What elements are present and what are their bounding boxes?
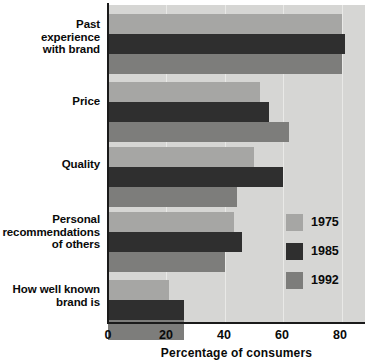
legend-label-1985: 1985	[311, 244, 339, 258]
x-axis-title: Percentage of consumers	[108, 346, 365, 360]
bar-1992-group-1	[108, 122, 289, 142]
bar-1992-group-3	[108, 252, 225, 272]
bar-1992-group-0	[108, 54, 342, 74]
legend-swatch-1985	[286, 243, 303, 260]
bar-1992-group-2	[108, 187, 237, 207]
legend-swatch-1975	[286, 214, 303, 231]
bar-1985-group-3	[108, 232, 242, 252]
bar-1975-group-1	[108, 82, 260, 102]
x-tick-20: 20	[159, 328, 173, 342]
x-tick-60: 60	[275, 328, 289, 342]
bar-chart: Past experience with brand Price Quality…	[0, 0, 375, 364]
x-tick-0: 0	[105, 328, 112, 342]
y-axis-label-how-well-known: How well known brand is	[13, 283, 100, 308]
bar-1985-group-2	[108, 167, 283, 187]
bar-1975-group-4	[108, 280, 169, 300]
legend-swatch-1992	[286, 272, 303, 289]
bar-1975-group-0	[108, 14, 342, 34]
y-axis-category-labels: Past experience with brand Price Quality…	[0, 0, 104, 322]
bar-1985-group-1	[108, 102, 269, 122]
bar-1985-group-4	[108, 300, 184, 320]
y-axis-line	[107, 3, 109, 324]
y-axis-label-past-experience: Past experience with brand	[41, 18, 100, 56]
y-axis-label-personal-recommendations: Personal recommendations of others	[2, 213, 100, 251]
legend-label-1992: 1992	[311, 273, 339, 287]
y-axis-label-quality: Quality	[62, 158, 100, 171]
x-axis-line	[107, 322, 365, 324]
y-axis-label-price: Price	[72, 95, 100, 108]
bar-1985-group-0	[108, 34, 345, 54]
legend-label-1975: 1975	[311, 215, 339, 229]
bar-1975-group-3	[108, 212, 234, 232]
x-tick-80: 80	[333, 328, 347, 342]
bar-1975-group-2	[108, 147, 254, 167]
x-tick-40: 40	[217, 328, 231, 342]
